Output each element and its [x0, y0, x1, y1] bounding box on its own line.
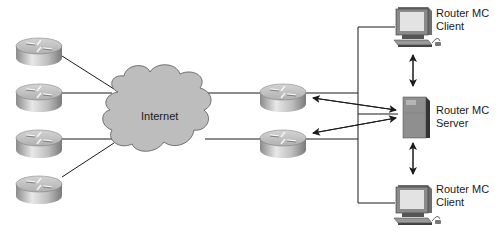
remote-router-2 — [16, 84, 62, 112]
client-top-label-line2: Client — [436, 20, 489, 33]
router-mc-server-icon — [403, 97, 430, 138]
client-top-label: Router MC Client — [436, 7, 489, 33]
remote-router-4 — [16, 176, 62, 204]
edge-router-2 — [260, 130, 306, 158]
internet-label: Internet — [141, 110, 178, 122]
edge-router-1 — [260, 84, 306, 112]
client-bottom-label: Router MC Client — [436, 183, 489, 209]
server-label-line2: Server — [436, 117, 489, 130]
internet-cloud — [103, 65, 211, 152]
remote-router-3 — [16, 130, 62, 158]
remote-router-1 — [16, 38, 62, 66]
server-label: Router MC Server — [436, 104, 489, 130]
client-bottom-label-line1: Router MC — [436, 183, 489, 196]
client-top-label-line1: Router MC — [436, 7, 489, 20]
router-mc-client-top-icon — [394, 7, 441, 47]
network-diagram — [0, 0, 502, 233]
client-bottom-label-line2: Client — [436, 196, 489, 209]
server-label-line1: Router MC — [436, 104, 489, 117]
router-mc-client-bottom-icon — [394, 185, 441, 225]
